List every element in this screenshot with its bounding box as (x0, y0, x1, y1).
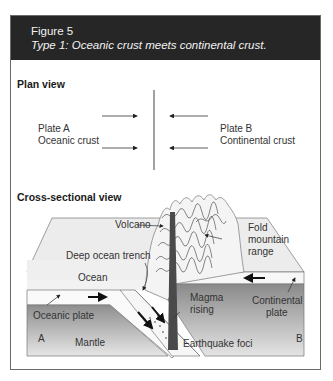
cross-section-heading: Cross-sectional view (17, 191, 121, 203)
label-volcano: Volcano (115, 219, 151, 231)
plate-a-name: Plate A (38, 123, 70, 135)
plate-a-type: Oceanic crust (38, 135, 99, 147)
label-magma-2: rising (190, 304, 214, 316)
label-continental-2: plate (266, 307, 288, 319)
label-magma-1: Magma (190, 292, 223, 304)
label-continental-1: Continental (252, 295, 303, 307)
label-oceanic-plate: Oceanic plate (33, 310, 94, 322)
label-mantle: Mantle (75, 337, 105, 349)
label-trench: Deep ocean trench (66, 250, 151, 262)
label-fold-1: Fold (248, 222, 267, 234)
label-ocean: Ocean (78, 272, 107, 284)
label-fold-2: mountain (248, 234, 289, 246)
label-side-b: B (296, 333, 303, 345)
label-fold-3: range (248, 246, 274, 258)
plate-b-name: Plate B (220, 123, 252, 135)
label-earthquake-foci: Earthquake foci (183, 338, 253, 350)
label-side-a: A (38, 333, 45, 345)
plate-b-type: Continental crust (220, 135, 295, 147)
